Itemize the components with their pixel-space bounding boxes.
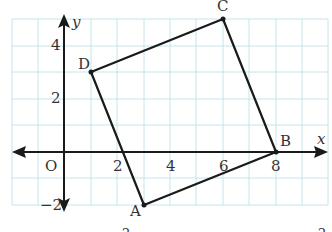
- origin-label: O: [45, 157, 57, 175]
- coordinate-diagram: y x O 4 2 −2 2 4 6 8 A B C D 2 2: [0, 0, 332, 232]
- x-tick-6: 6: [219, 157, 229, 175]
- point-b-label: B: [280, 132, 291, 150]
- y-tick-neg2: −2: [40, 196, 62, 214]
- x-tick-8: 8: [271, 157, 281, 175]
- point-c-label: C: [217, 0, 228, 15]
- footer-fragment-2: 2: [318, 226, 326, 232]
- y-tick-2: 2: [51, 89, 61, 107]
- x-axis-left-arrow-icon: [12, 146, 26, 158]
- x-axis-label: x: [317, 130, 326, 148]
- y-tick-4: 4: [51, 36, 61, 54]
- point-a-label: A: [129, 202, 141, 220]
- y-axis-label: y: [71, 13, 81, 31]
- point-d-label: D: [78, 55, 90, 73]
- x-tick-2: 2: [113, 157, 123, 175]
- footer-fragment-1: 2: [122, 226, 130, 232]
- point-a: [142, 203, 147, 208]
- x-tick-4: 4: [166, 157, 176, 175]
- point-c: [221, 17, 226, 22]
- point-b: [274, 150, 279, 155]
